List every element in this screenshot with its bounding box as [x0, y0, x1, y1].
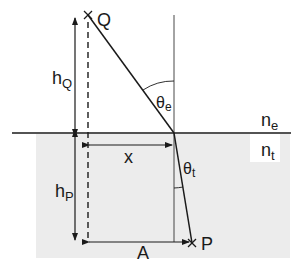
label-A: A — [137, 243, 149, 263]
theta-e-arc — [143, 81, 174, 90]
label-P: P — [201, 234, 213, 254]
refraction-diagram: Q P hQ hP x A θe θt ne nt — [0, 0, 299, 264]
label-hQ: hQ — [52, 68, 72, 91]
incident-ray — [88, 15, 174, 133]
label-x: x — [124, 147, 133, 167]
label-ne: ne — [261, 110, 278, 133]
point-Q-cross — [84, 11, 92, 19]
label-Q: Q — [97, 10, 111, 30]
